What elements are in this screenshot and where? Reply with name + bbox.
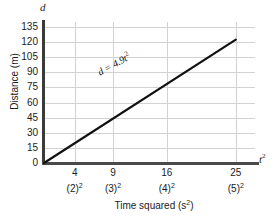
x-axis-title-close: ) bbox=[190, 200, 193, 211]
y-axis-title: Distance (m) bbox=[9, 24, 20, 140]
series-polyline bbox=[44, 40, 236, 163]
x-axis-title: Time squared (s2) bbox=[64, 199, 244, 211]
chart-screenshot: d t2 0153045607590105120135 4(2)29(3)216… bbox=[0, 0, 278, 217]
x-axis-title-text: Time squared (s bbox=[114, 200, 186, 211]
data-series-line bbox=[0, 0, 278, 217]
